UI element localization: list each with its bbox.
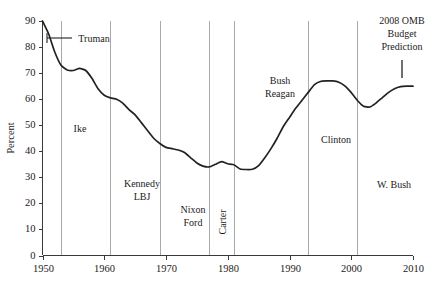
x-tick-label-1970: 1970 bbox=[156, 263, 177, 274]
era-label-reagan: Reagan bbox=[265, 88, 295, 99]
figure-container: 0102030405060708090 19501960197019801990… bbox=[0, 0, 443, 286]
era-divider-group bbox=[62, 21, 358, 256]
x-tick-label-1960: 1960 bbox=[94, 263, 115, 274]
y-tick-label-20: 20 bbox=[25, 197, 36, 208]
era-label-carter: Carter bbox=[217, 209, 228, 235]
y-tick-label-60: 60 bbox=[25, 93, 36, 104]
y-tick-label-0: 0 bbox=[30, 250, 35, 261]
era-label-ike: Ike bbox=[74, 123, 87, 134]
x-axis-ticks: 1950196019701980199020002010 bbox=[33, 256, 424, 274]
y-tick-label-10: 10 bbox=[25, 223, 36, 234]
y-tick-label-90: 90 bbox=[25, 15, 36, 26]
y-tick-label-40: 40 bbox=[25, 145, 36, 156]
y-tick-label-80: 80 bbox=[25, 41, 36, 52]
x-tick-label-1950: 1950 bbox=[33, 263, 54, 274]
y-tick-label-50: 50 bbox=[25, 119, 36, 130]
line-chart: 0102030405060708090 19501960197019801990… bbox=[0, 0, 443, 286]
y-axis-title: Percent bbox=[5, 122, 16, 154]
era-label-bush: Bush bbox=[270, 75, 291, 86]
era-label-kennedy: Kennedy bbox=[124, 178, 160, 189]
era-label-lbj: LBJ bbox=[134, 191, 151, 202]
annotation-omb-line1: 2008 OMB bbox=[379, 15, 425, 26]
y-tick-label-30: 30 bbox=[25, 171, 36, 182]
x-tick-label-1990: 1990 bbox=[280, 263, 301, 274]
annotation-omb-line3: Prediction bbox=[381, 41, 422, 52]
x-tick-label-2010: 2010 bbox=[403, 263, 424, 274]
x-tick-label-2000: 2000 bbox=[341, 263, 362, 274]
x-tick-label-1980: 1980 bbox=[218, 263, 239, 274]
era-label-ford: Ford bbox=[184, 217, 203, 228]
y-axis-ticks: 0102030405060708090 bbox=[25, 15, 43, 261]
era-label-w-bush: W. Bush bbox=[377, 179, 411, 190]
era-label-nixon: Nixon bbox=[181, 204, 206, 215]
era-label-truman: Truman bbox=[78, 33, 109, 44]
era-label-clinton: Clinton bbox=[321, 134, 351, 145]
y-tick-label-70: 70 bbox=[25, 67, 36, 78]
annotation-omb-line2: Budget bbox=[388, 28, 417, 39]
